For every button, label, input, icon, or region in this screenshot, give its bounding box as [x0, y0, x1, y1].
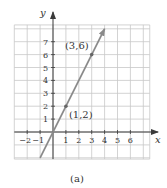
- x-tick-label: 1: [63, 136, 68, 145]
- point-label: (1,2): [69, 109, 93, 120]
- y-tick-label: 2: [43, 102, 48, 111]
- figure-caption: (a): [70, 173, 84, 184]
- x-tick-label: 4: [102, 136, 107, 145]
- data-point: [90, 53, 94, 57]
- x-tick-label: −2: [19, 136, 31, 145]
- x-axis-label: x: [155, 134, 161, 145]
- y-tick-label: 5: [43, 64, 48, 73]
- x-tick-label: −1: [32, 136, 44, 145]
- x-tick-label: 5: [115, 136, 120, 145]
- data-point: [64, 104, 68, 108]
- x-tick-label: 3: [89, 136, 94, 145]
- x-tick-label: 6: [128, 136, 133, 145]
- y-tick-label: 7: [43, 38, 48, 47]
- tick-labels: −2−11234561234567: [19, 38, 133, 145]
- y-tick-label: 4: [43, 76, 48, 85]
- x-tick-label: 2: [76, 136, 81, 145]
- point-label: (3,6): [65, 40, 89, 51]
- y-tick-label: 3: [43, 89, 48, 98]
- y-tick-label: 1: [43, 115, 48, 124]
- y-tick-label: 6: [43, 51, 48, 60]
- line-chart: −2−11234561234567 (1,2)(3,6) x y (a): [0, 0, 167, 188]
- y-axis-label: y: [39, 7, 46, 18]
